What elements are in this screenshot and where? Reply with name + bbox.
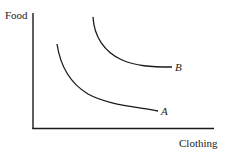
curve-a (57, 44, 158, 111)
indifference-curve-diagram (0, 0, 225, 153)
curve-b (93, 17, 172, 67)
x-axis-label: Clothing (179, 138, 218, 149)
curve-b-label: B (175, 62, 182, 73)
y-axis-label: Food (5, 10, 28, 21)
curve-a-label: A (161, 106, 168, 117)
